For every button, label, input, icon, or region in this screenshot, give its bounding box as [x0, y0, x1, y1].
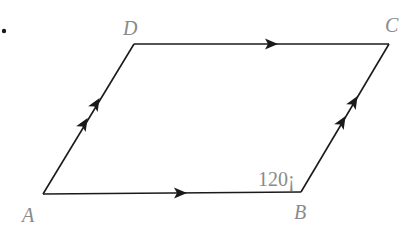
edge-ad [43, 44, 134, 194]
edge-ab [43, 192, 301, 194]
vertex-label-b: B [294, 202, 306, 222]
vertex-label-a: A [22, 205, 34, 225]
bullet-dot [2, 29, 6, 33]
vertex-label-c: C [385, 15, 398, 35]
angle-label-b: 120¡ [258, 169, 295, 189]
parallelogram-diagram [0, 0, 413, 235]
vertex-label-d: D [123, 18, 137, 38]
